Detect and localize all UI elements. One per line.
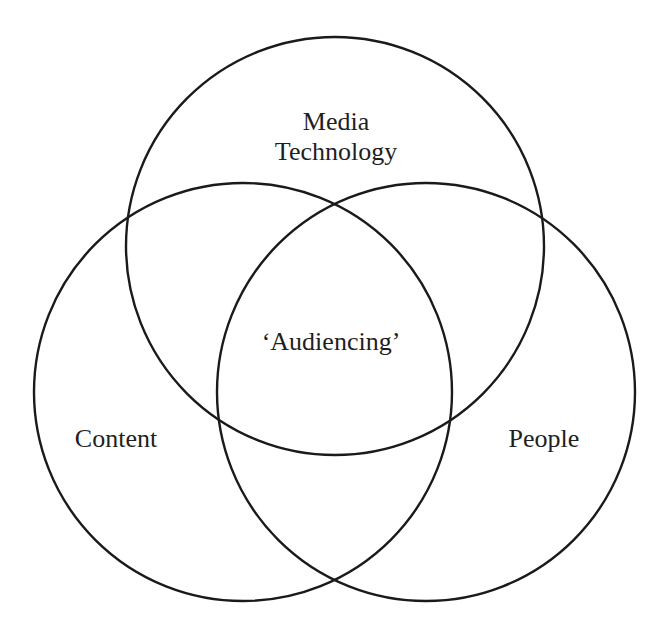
label-content: Content [75, 424, 158, 453]
circle-people [217, 183, 635, 601]
circle-media-technology [126, 37, 544, 455]
label-media: Media [303, 107, 370, 136]
venn-diagram: Media Technology ‘Audiencing’ Content Pe… [0, 0, 659, 627]
label-people: People [509, 424, 580, 453]
circle-content [34, 183, 452, 601]
label-technology: Technology [275, 137, 397, 166]
label-audiencing: ‘Audiencing’ [262, 327, 401, 356]
